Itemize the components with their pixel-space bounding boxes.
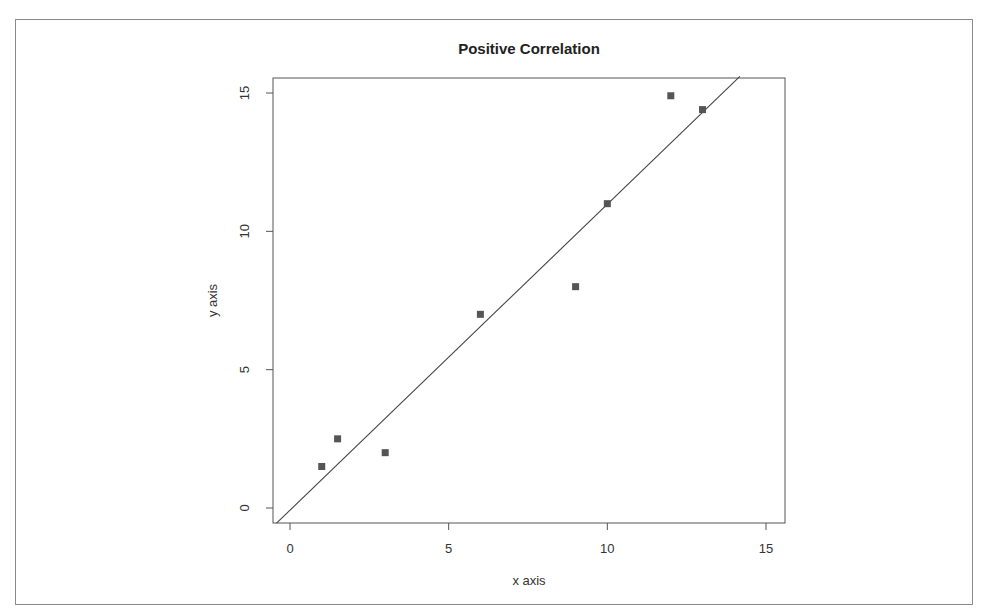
y-axis-ticks: 051015: [237, 86, 273, 512]
x-tick-label: 5: [445, 541, 452, 556]
data-point: [667, 92, 674, 99]
data-points: [318, 92, 706, 470]
y-tick-label: 15: [237, 86, 252, 100]
y-tick-label: 0: [237, 504, 252, 511]
y-axis-label: y axis: [205, 283, 220, 317]
chart-figure: Positive Correlation 051015 051015 x axi…: [15, 19, 973, 605]
chart-canvas: Positive Correlation 051015 051015 x axi…: [16, 20, 974, 606]
data-point: [604, 200, 611, 207]
x-tick-label: 0: [286, 541, 293, 556]
data-point: [334, 435, 341, 442]
y-tick-label: 10: [237, 224, 252, 238]
data-point: [572, 283, 579, 290]
x-axis-ticks: 051015: [286, 523, 773, 556]
x-tick-label: 10: [600, 541, 614, 556]
x-axis-label: x axis: [512, 573, 546, 588]
plot-frame: [273, 78, 785, 523]
y-tick-label: 5: [237, 366, 252, 373]
data-point: [477, 311, 484, 318]
data-point: [699, 106, 706, 113]
chart-title: Positive Correlation: [458, 40, 600, 57]
x-tick-label: 15: [759, 541, 773, 556]
data-point: [382, 449, 389, 456]
regression-line: [277, 76, 740, 523]
data-point: [318, 463, 325, 470]
